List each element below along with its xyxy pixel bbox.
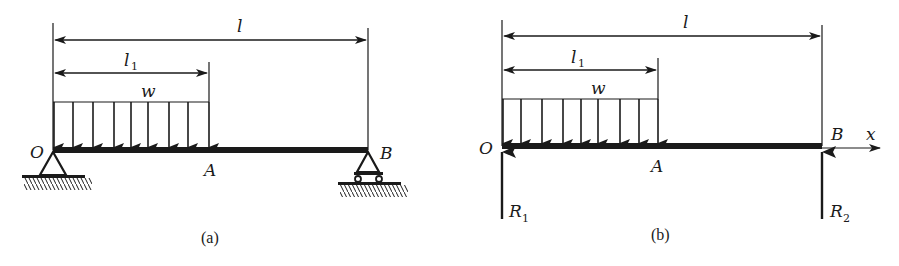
reaction-r2: R 2 (822, 152, 850, 225)
label-a: A (202, 160, 216, 180)
load-arrows (54, 102, 209, 147)
beam (502, 143, 822, 149)
label-r1-sub: 1 (522, 212, 529, 225)
label-b: B (830, 124, 844, 144)
roller-support (338, 152, 408, 197)
label-span-l1: l (124, 50, 129, 70)
caption-b: (b) (651, 226, 670, 244)
dimension-l1: l 1 (504, 47, 656, 70)
beam (53, 147, 368, 153)
dimension-l: l (504, 12, 820, 36)
distributed-load-w: w (53, 81, 209, 147)
figure-a: l l 1 w (22, 16, 408, 247)
label-o: O (30, 142, 44, 162)
label-span-l1: l (571, 47, 576, 67)
beam-diagrams: l l 1 w (0, 0, 899, 266)
figure-b: l l 1 w x (479, 12, 880, 244)
reaction-r1: R 1 (502, 152, 529, 225)
distributed-load-w: w (502, 78, 658, 143)
label-r2-sub: 2 (843, 212, 850, 225)
label-span-l1-sub: 1 (578, 57, 585, 70)
label-span-l: l (237, 16, 242, 36)
label-x-axis: x (866, 124, 876, 144)
label-o: O (479, 138, 493, 158)
dimension-l1: l 1 (55, 50, 207, 73)
label-span-l: l (683, 12, 688, 32)
label-r1: R (508, 201, 522, 221)
load-arrows (503, 99, 658, 143)
dimension-l: l (55, 16, 366, 40)
label-load-w: w (141, 81, 156, 101)
label-span-l1-sub: 1 (131, 60, 138, 73)
label-b: B (379, 143, 393, 163)
label-r2: R (829, 201, 843, 221)
caption-a: (a) (201, 229, 219, 247)
label-a: A (649, 156, 663, 176)
label-load-w: w (591, 78, 606, 98)
